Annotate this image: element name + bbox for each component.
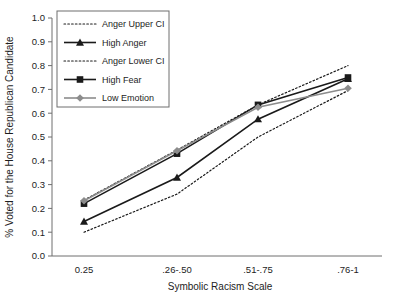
y-tick-label: 0.9 — [32, 36, 45, 47]
y-tick-label: 1.0 — [32, 12, 45, 23]
y-tick-label: 0.6 — [32, 108, 45, 119]
x-tick-label: .51-.75 — [243, 264, 273, 275]
legend-item-label: High Anger — [102, 38, 147, 48]
y-tick-label: 0.8 — [32, 60, 45, 71]
y-tick-label: 0.0 — [32, 250, 45, 261]
x-axis-ticks: 0.25.26-.50.51-.75.76-1 — [75, 264, 359, 275]
data-point-triangle — [80, 217, 88, 224]
y-tick-label: 0.3 — [32, 179, 45, 190]
data-point-square — [77, 76, 84, 83]
legend-item-label: Low Emotion — [102, 93, 154, 103]
legend-item-label: High Fear — [102, 75, 142, 85]
x-axis-title: Symbolic Racism Scale — [168, 281, 273, 292]
legend-item-label: Anger Lower CI — [102, 56, 165, 66]
y-tick-label: 0.4 — [32, 155, 45, 166]
series-line — [84, 91, 348, 233]
legend: Anger Upper CIHigh AngerAnger Lower CIHi… — [57, 11, 169, 107]
y-tick-label: 0.2 — [32, 203, 45, 214]
series-anger-lower-ci — [84, 91, 348, 233]
y-axis-title: % Voted for the House Republican Candida… — [4, 36, 15, 238]
line-chart: 0.00.10.20.30.40.50.60.70.80.91.00.25.26… — [0, 0, 394, 295]
chart-figure: 0.00.10.20.30.40.50.60.70.80.91.00.25.26… — [0, 0, 394, 295]
x-tick-label: .76-1 — [337, 264, 359, 275]
y-tick-label: 0.5 — [32, 131, 45, 142]
data-point-square — [345, 74, 352, 81]
x-tick-label: .26-.50 — [162, 264, 192, 275]
legend-item-label: Anger Upper CI — [102, 19, 165, 29]
y-axis-ticks: 0.00.10.20.30.40.50.60.70.80.91.0 — [32, 12, 52, 261]
y-tick-label: 0.7 — [32, 84, 45, 95]
x-tick-label: 0.25 — [75, 264, 94, 275]
y-tick-label: 0.1 — [32, 227, 45, 238]
data-point-diamond — [344, 84, 352, 92]
